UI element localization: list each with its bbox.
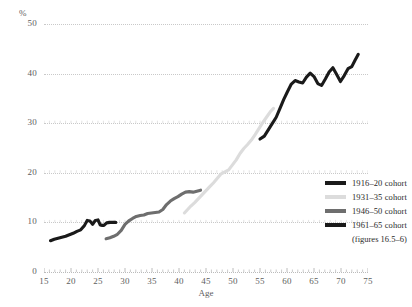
y-axis-unit-label: % [19,8,27,18]
y-tick-label-10: 10 [7,216,37,226]
data-series-layer [44,24,368,272]
legend-item-label: 1916–20 cohort [352,178,407,188]
x-tick-label-45: 45 [194,276,218,286]
legend-rows: 1916–20 cohort1931–35 cohort1946–50 coho… [325,176,412,232]
legend-item-label: 1931–35 cohort [352,192,407,202]
x-tick-label-55: 55 [248,276,272,286]
x-tick-label-30: 30 [113,276,137,286]
gridline-y-0 [44,272,368,274]
legend-item: 1916–20 cohort [325,176,412,190]
y-tick-label-20: 20 [7,167,37,177]
x-tick-label-60: 60 [275,276,299,286]
x-tick-label-40: 40 [167,276,191,286]
series-line-1931 [184,108,273,213]
y-tick-label-50: 50 [7,18,37,28]
x-tick-label-70: 70 [329,276,353,286]
y-tick-label-0: 0 [7,266,37,276]
legend-swatch-icon [325,209,346,213]
x-tick-label-65: 65 [302,276,326,286]
x-tick-label-35: 35 [140,276,164,286]
legend-item: 1961–65 cohort [325,218,412,232]
legend-swatch-icon [325,181,346,185]
legend-swatch-icon [325,195,346,199]
plot-area [44,24,368,272]
x-tick-label-20: 20 [59,276,83,286]
y-tick-label-30: 30 [7,117,37,127]
x-axis-title: Age [0,288,412,298]
legend-item: 1946–50 cohort [325,204,412,218]
legend-swatch-icon [325,223,346,227]
legend-note: (figures 16.5–6) [352,234,412,244]
legend-item: 1931–35 cohort [325,190,412,204]
chart-legend: 1916–20 cohort1931–35 cohort1946–50 coho… [325,176,412,244]
chart-figure: % 01020304050 15202530354045505560657075… [0,0,412,307]
series-line-1946 [106,190,201,239]
x-tick-label-15: 15 [32,276,56,286]
legend-item-label: 1946–50 cohort [352,206,407,216]
x-tick-label-25: 25 [86,276,110,286]
x-tick-label-50: 50 [221,276,245,286]
x-tick-label-75: 75 [356,276,380,286]
legend-item-label: 1961–65 cohort [352,220,407,230]
series-line-1916 [260,54,358,139]
y-tick-label-40: 40 [7,68,37,78]
